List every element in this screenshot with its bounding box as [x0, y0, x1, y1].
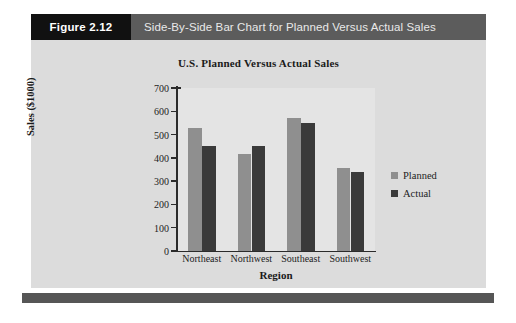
y-axis-top-cap	[176, 87, 181, 89]
x-axis-category-label: Northeast	[182, 253, 221, 264]
figure-number-tag: Figure 2.12	[31, 14, 131, 40]
figure-panel: U.S. Planned Versus Actual Sales 0100200…	[31, 40, 486, 288]
bar-actual-northeast	[202, 146, 216, 251]
figure-root: Figure 2.12 Side-By-Side Bar Chart for P…	[0, 0, 516, 323]
y-axis-tick	[171, 250, 177, 251]
y-axis-tick-label: 700	[109, 83, 169, 94]
bar-planned-southeast	[287, 118, 301, 251]
chart-legend: Planned Actual	[391, 168, 437, 204]
y-axis-tick-label: 300	[109, 176, 169, 187]
figure-header-bar: Figure 2.12 Side-By-Side Bar Chart for P…	[31, 14, 486, 40]
y-axis-tick	[171, 134, 177, 135]
legend-swatch-actual-icon	[391, 190, 398, 197]
chart-plot-wrapper: 0100200300400500600700 Sales ($1000) Reg…	[31, 40, 486, 288]
y-tick-labels: 0100200300400500600700	[103, 40, 169, 288]
bar-planned-northeast	[188, 128, 202, 251]
x-axis-title: Region	[177, 269, 375, 281]
figure-caption: Side-By-Side Bar Chart for Planned Versu…	[131, 14, 486, 40]
legend-label-actual: Actual	[403, 188, 431, 199]
legend-item-planned: Planned	[391, 168, 437, 183]
figure-footer-bar	[22, 293, 494, 303]
legend-item-actual: Actual	[391, 186, 437, 201]
y-axis-tick-label: 600	[109, 106, 169, 117]
y-axis-tick	[171, 204, 177, 205]
y-axis-tick	[171, 180, 177, 181]
y-axis-tick	[171, 227, 177, 228]
bar-planned-southwest	[337, 168, 351, 251]
x-axis-category-label: Northwest	[230, 253, 272, 264]
y-axis-title: Sales ($1000)	[25, 77, 36, 136]
y-axis-tick-label: 500	[109, 129, 169, 140]
y-axis-tick	[171, 111, 177, 112]
legend-swatch-planned-icon	[391, 172, 398, 179]
bar-actual-southeast	[301, 123, 315, 251]
x-axis-category-label: Southeast	[281, 253, 320, 264]
y-axis-tick-label: 0	[109, 246, 169, 257]
y-axis-tick-label: 400	[109, 152, 169, 163]
bar-planned-northwest	[238, 154, 252, 251]
y-axis-tick-label: 100	[109, 222, 169, 233]
x-axis-category-label: Southwest	[329, 253, 371, 264]
bar-actual-southwest	[351, 172, 365, 251]
legend-label-planned: Planned	[403, 170, 437, 181]
y-axis-tick-label: 200	[109, 199, 169, 210]
bar-actual-northwest	[252, 146, 266, 251]
y-axis-tick	[171, 157, 177, 158]
bars-layer	[177, 88, 375, 251]
